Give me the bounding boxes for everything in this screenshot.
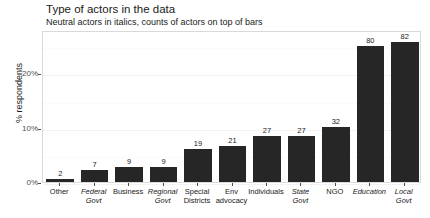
bar-rect[interactable] (115, 167, 143, 182)
bar-value-label: 7 (81, 161, 109, 169)
y-axis-ticks: 0%10%20% (8, 0, 38, 218)
bar-value-label: 32 (322, 118, 350, 126)
x-tick-mark (300, 183, 301, 186)
bar-rect[interactable] (288, 136, 316, 182)
bar-rect[interactable] (46, 179, 74, 182)
y-tick-mark (38, 74, 41, 75)
chart-subtitle: Neutral actors in italics, counts of act… (46, 17, 263, 28)
bar-value-label: 80 (357, 37, 385, 45)
bar-rect[interactable] (322, 127, 350, 182)
bar-rect[interactable] (219, 146, 247, 182)
bar-rect[interactable] (184, 149, 212, 182)
y-tick-label: 20% (10, 69, 38, 78)
bar-value-label: 21 (219, 137, 247, 145)
bar-group[interactable]: 32 (322, 30, 350, 182)
y-tick-label: 0% (10, 178, 38, 187)
bar-rect[interactable] (357, 46, 385, 182)
bar-group[interactable]: 9 (115, 30, 143, 182)
x-tick-mark (369, 183, 370, 186)
y-tick-mark (38, 183, 41, 184)
x-tick-label: Local Govt (383, 188, 425, 205)
bar-value-label: 27 (288, 127, 316, 135)
bar-group[interactable]: 82 (391, 30, 419, 182)
y-tick-mark (38, 129, 41, 130)
bar-group[interactable]: 21 (219, 30, 247, 182)
y-tick-label: 10% (10, 124, 38, 133)
bar-group[interactable]: 7 (81, 30, 109, 182)
x-tick-mark (266, 183, 267, 186)
x-tick-mark (94, 183, 95, 186)
x-tick-mark (232, 183, 233, 186)
bar-value-label: 27 (253, 127, 281, 135)
bar-value-label: 9 (115, 158, 143, 166)
bar-value-label: 19 (184, 140, 212, 148)
x-tick-mark (197, 183, 198, 186)
x-tick-mark (128, 183, 129, 186)
plot-panel: 279919212727328082 (42, 31, 421, 183)
bar-rect[interactable] (253, 136, 281, 182)
bar-group[interactable]: 9 (150, 30, 178, 182)
x-tick-mark (404, 183, 405, 186)
bar-group[interactable]: 27 (253, 30, 281, 182)
bar-group[interactable]: 2 (46, 30, 74, 182)
bar-value-label: 2 (46, 170, 74, 178)
bar-rect[interactable] (150, 167, 178, 182)
bar-rect[interactable] (391, 42, 419, 182)
bar-group[interactable]: 80 (357, 30, 385, 182)
x-tick-mark (59, 183, 60, 186)
x-tick-mark (335, 183, 336, 186)
x-axis: OtherFederal GovtBusinessRegional GovtSp… (42, 183, 421, 218)
bar-group[interactable]: 27 (288, 30, 316, 182)
bar-value-label: 82 (391, 33, 419, 41)
bar-group[interactable]: 19 (184, 30, 212, 182)
bars-layer: 279919212727328082 (43, 32, 420, 182)
bar-value-label: 9 (150, 158, 178, 166)
bar-rect[interactable] (81, 170, 109, 182)
chart-title: Type of actors in the data (46, 3, 175, 16)
x-tick-mark (163, 183, 164, 186)
chart-page: Type of actors in the data Neutral actor… (0, 0, 430, 218)
